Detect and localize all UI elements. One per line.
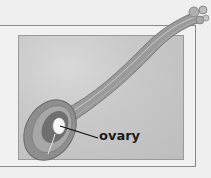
ovary-label: ovary <box>99 128 140 143</box>
ovule <box>53 118 65 134</box>
ovary-body <box>13 90 87 169</box>
pistil-illustration <box>0 0 211 178</box>
